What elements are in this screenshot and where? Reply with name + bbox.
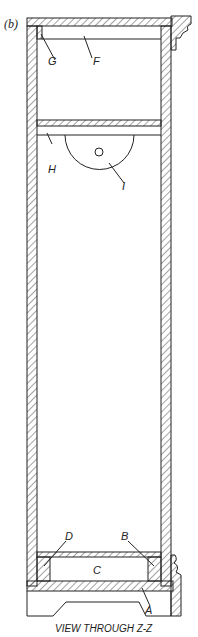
label-b: B — [121, 530, 128, 542]
right-side-wall — [161, 26, 171, 586]
label-d: D — [65, 530, 73, 542]
cornice-moulding — [171, 16, 191, 50]
semicircular-bracket-i — [65, 135, 134, 170]
label-f: F — [93, 55, 101, 67]
label-g: G — [48, 55, 57, 67]
corner-block-g — [37, 26, 42, 39]
shelf-h — [37, 120, 161, 126]
label-a: A — [144, 604, 152, 616]
label-h: H — [48, 163, 56, 175]
block-d — [37, 557, 50, 581]
cabinet-section-drawing: (b) G F H I D B C A VIEW THROUGH Z-Z — [0, 0, 198, 637]
block-b — [148, 557, 161, 581]
caption: VIEW THROUGH Z-Z — [55, 623, 153, 634]
hole-i — [95, 148, 103, 156]
top-board — [27, 18, 172, 26]
label-i: I — [122, 180, 125, 192]
base-moulding — [171, 555, 181, 616]
panel-label: (b) — [4, 17, 18, 31]
label-c: C — [93, 564, 101, 576]
base-board-a — [27, 581, 173, 591]
left-side-wall — [27, 26, 37, 586]
